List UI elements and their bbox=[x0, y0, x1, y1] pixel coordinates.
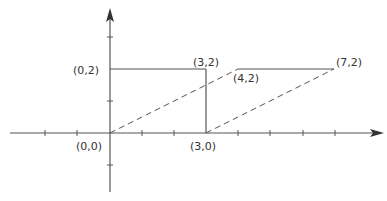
label-0-2: (0,2) bbox=[73, 64, 99, 77]
label-3-2: (3,2) bbox=[193, 56, 219, 69]
coordinate-diagram: (0,0) (3,0) (0,2) (3,2) (4,2) (7,2) bbox=[0, 0, 387, 201]
label-3-0: (3,0) bbox=[190, 140, 216, 153]
original-rectangle bbox=[110, 69, 206, 133]
sheared-edges bbox=[110, 69, 334, 133]
y-axis bbox=[106, 8, 114, 192]
label-origin: (0,0) bbox=[76, 140, 102, 153]
label-7-2: (7,2) bbox=[336, 56, 362, 69]
dashed-segment-30-72 bbox=[206, 69, 334, 133]
label-4-2: (4,2) bbox=[233, 72, 259, 85]
x-axis bbox=[10, 129, 384, 137]
dashed-segment-00-42 bbox=[110, 69, 238, 133]
